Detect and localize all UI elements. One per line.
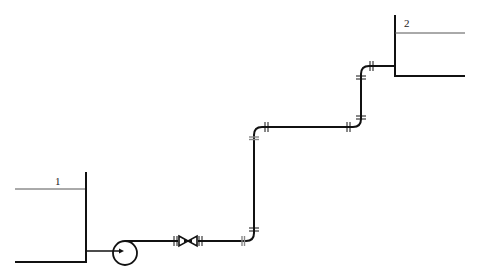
tank-1: 1 [15,172,87,263]
piping-diagram: 1 2 [0,0,477,277]
arrow-icon [119,249,124,254]
tank-1-label: 1 [55,175,61,187]
discharge-pipe [125,66,395,241]
flanges [174,61,373,246]
pump [86,241,137,265]
tank-2-label: 2 [404,17,410,29]
valve [178,236,198,246]
pump-icon [113,241,137,265]
tank-2: 2 [394,15,465,77]
